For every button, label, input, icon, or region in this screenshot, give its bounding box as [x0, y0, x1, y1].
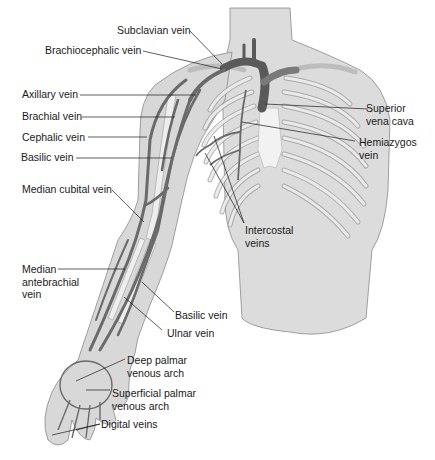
anatomy-illustration	[0, 0, 435, 460]
label-superior-vena-cava: Superior vena cava	[366, 102, 414, 127]
label-median-antebrachial-vein: Median antebrachial vein	[22, 263, 79, 301]
label-median-cubital-vein: Median cubital vein	[22, 183, 112, 196]
label-deep-palmar-venous-arch: Deep palmar venous arch	[127, 354, 187, 379]
label-hemiazygos-vein: Hemiazygos vein	[359, 136, 417, 161]
label-basilic-vein-upper: Basilic vein	[21, 151, 74, 164]
torso-silhouette	[222, 8, 390, 334]
label-axillary-vein: Axillary vein	[22, 88, 78, 101]
label-superficial-palmar-venous-arch: Superficial palmar venous arch	[112, 387, 196, 412]
label-ulnar-vein: Ulnar vein	[167, 327, 214, 340]
vein-anatomy-diagram: Subclavian vein Brachiocephalic vein Axi…	[0, 0, 435, 460]
label-brachial-vein: Brachial vein	[22, 110, 82, 123]
label-subclavian-vein: Subclavian vein	[117, 24, 191, 37]
label-digital-veins: Digital veins	[101, 418, 158, 431]
label-brachiocephalic-vein: Brachiocephalic vein	[45, 44, 141, 57]
label-cephalic-vein: Cephalic vein	[22, 131, 85, 144]
label-intercostal-veins: Intercostal veins	[245, 224, 293, 249]
label-basilic-vein-lower: Basilic vein	[175, 309, 228, 322]
sternum	[258, 108, 282, 168]
